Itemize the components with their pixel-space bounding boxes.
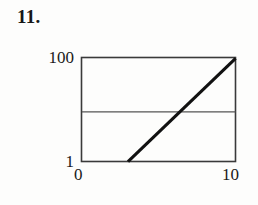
data-line-series bbox=[128, 58, 236, 161]
chart-graphic bbox=[0, 0, 258, 205]
y-axis-tick-label-100: 100 bbox=[49, 49, 75, 66]
chart-area: 100 1 0 10 bbox=[0, 0, 258, 205]
plot-frame bbox=[82, 58, 236, 162]
x-axis-tick-label-10: 10 bbox=[222, 166, 239, 183]
x-axis-tick-label-0: 0 bbox=[74, 166, 83, 183]
figure-root: 11. 100 1 0 10 bbox=[0, 0, 258, 205]
y-axis-tick-label-1: 1 bbox=[66, 153, 75, 170]
